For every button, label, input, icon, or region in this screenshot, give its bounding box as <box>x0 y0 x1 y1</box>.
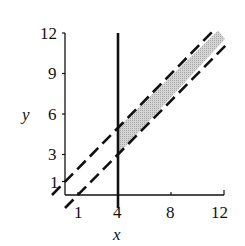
x-ticks <box>78 190 224 195</box>
shaded-region <box>118 31 225 155</box>
x-tick-label-8: 8 <box>166 203 175 222</box>
x-tick-label-12: 12 <box>211 203 228 222</box>
x-tick-label-1: 1 <box>74 203 83 222</box>
chart: 12 9 6 3 1 1 4 8 12 x y <box>0 0 245 246</box>
lower-dashed-line <box>65 44 227 208</box>
upper-dashed-line <box>52 30 214 195</box>
y-axis-label: y <box>20 105 30 124</box>
y-tick-label-6: 6 <box>48 105 57 124</box>
y-tick-label-12: 12 <box>40 24 57 43</box>
y-tick-label-9: 9 <box>48 64 57 83</box>
y-tick-label-1: 1 <box>50 173 59 192</box>
x-tick-label-4: 4 <box>113 203 122 222</box>
x-axis-label: x <box>112 225 121 244</box>
y-tick-label-3: 3 <box>48 145 57 164</box>
